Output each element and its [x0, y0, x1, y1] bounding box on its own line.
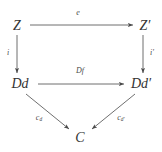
- edge-label-c-d-prime-subscript: d′: [121, 116, 125, 122]
- edge-label-c-d-prime: cd′: [117, 114, 124, 123]
- edge-label-i: i: [7, 49, 9, 57]
- arrow-c-d: [26, 94, 69, 129]
- node-Z-prime: Z′: [140, 19, 151, 33]
- edge-label-c-d: cd: [36, 114, 42, 123]
- node-Z: Z: [13, 19, 21, 33]
- node-Dd-prime: Dd′: [131, 77, 151, 91]
- edge-label-i-prime: i′: [150, 49, 154, 57]
- node-C: C: [75, 131, 84, 145]
- node-Dd: Dd: [11, 77, 28, 91]
- edge-label-Df: Df: [76, 67, 84, 75]
- arrow-c-d-prime: [92, 94, 135, 129]
- edge-label-e: e: [76, 9, 80, 17]
- edge-label-c-d-subscript: d: [39, 116, 42, 122]
- commutative-diagram: Z Z′ Dd Dd′ C e i i′ Df cd cd′: [0, 0, 162, 152]
